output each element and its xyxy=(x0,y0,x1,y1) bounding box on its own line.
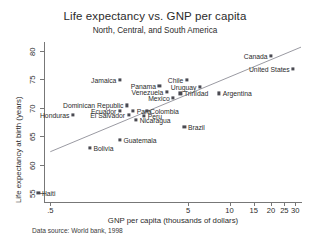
data-source-note: Data source: World bank, 1998 xyxy=(32,227,123,234)
scatter-chart: Life expectancy vs. GNP per capita North… xyxy=(0,0,310,245)
data-point xyxy=(183,125,186,128)
data-point-label: Haiti xyxy=(42,189,56,196)
data-point-label: Canada xyxy=(244,52,268,59)
data-point xyxy=(218,92,221,95)
x-axis-line xyxy=(44,202,302,203)
y-tick-mark xyxy=(40,108,44,109)
data-point xyxy=(71,113,74,116)
y-tick-label-text: 60 xyxy=(28,161,37,169)
data-point-label: Mexico xyxy=(148,95,170,102)
data-point xyxy=(269,54,272,57)
data-point-label: Bolivia xyxy=(93,145,113,152)
y-tick-mark xyxy=(40,79,44,80)
data-point-label: El Salvador xyxy=(90,111,125,118)
y-axis-line xyxy=(44,42,45,203)
data-point xyxy=(292,67,295,70)
chart-subtitle: North, Central, and South America xyxy=(0,26,310,35)
data-point-label: Guatemala xyxy=(123,137,156,144)
data-point xyxy=(135,119,138,122)
y-tick-mark xyxy=(40,165,44,166)
y-tick-mark xyxy=(40,136,44,137)
x-tick-label: 30 xyxy=(291,206,299,215)
data-point xyxy=(198,86,201,89)
x-tick-label: .5 xyxy=(47,206,53,215)
data-point xyxy=(127,113,130,116)
data-point-label: Chile xyxy=(168,76,184,83)
y-tick-label: 70 xyxy=(14,103,30,113)
y-tick-label: 55 xyxy=(14,188,30,198)
data-point xyxy=(132,109,135,112)
y-tick-label-text: 75 xyxy=(28,76,37,84)
data-point xyxy=(185,78,188,81)
data-point xyxy=(88,147,91,150)
x-tick-label: 20 xyxy=(267,206,275,215)
y-tick-label-text: 70 xyxy=(28,104,37,112)
y-tick-label-text: 55 xyxy=(28,190,37,198)
y-axis-title: Life expectancy at birth (years) xyxy=(4,42,16,203)
y-tick-mark xyxy=(40,51,44,52)
data-point xyxy=(118,79,121,82)
data-point-label: Brazil xyxy=(188,123,205,130)
data-point xyxy=(37,191,40,194)
chart-title: Life expectancy vs. GNP per capita xyxy=(0,10,310,22)
x-axis-title: GNP per capita (thousands of dollars) xyxy=(44,216,302,225)
y-tick-label-text: 80 xyxy=(28,47,37,55)
y-tick-label-text: 65 xyxy=(28,133,37,141)
data-point-label: United States xyxy=(249,65,290,72)
y-tick-label: 75 xyxy=(14,74,30,84)
x-tick-label: 25 xyxy=(280,206,288,215)
data-point xyxy=(179,92,182,95)
data-point-label: Honduras xyxy=(40,111,69,118)
data-point xyxy=(165,91,168,94)
y-tick-label: 80 xyxy=(14,46,30,56)
data-point-label: Trinidad xyxy=(184,90,208,97)
x-tick-label: 15 xyxy=(250,206,258,215)
y-tick-label: 65 xyxy=(14,131,30,141)
x-tick-label: 10 xyxy=(225,206,233,215)
data-point-label: Nicaragua xyxy=(140,117,171,124)
data-point xyxy=(158,84,161,87)
data-point-label: Jamaica xyxy=(91,77,116,84)
data-point xyxy=(118,139,121,142)
data-point xyxy=(125,104,128,107)
x-tick-label: 5 xyxy=(186,206,190,215)
y-tick-label: 60 xyxy=(14,160,30,170)
data-point xyxy=(172,96,175,99)
data-point-label: Argentina xyxy=(223,90,252,97)
